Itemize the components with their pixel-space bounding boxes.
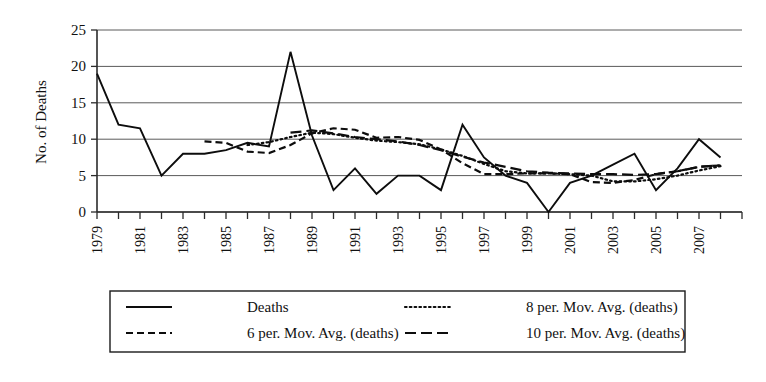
x-tick-label-1979: 1979 [90,226,105,254]
x-tick-label-1983: 1983 [176,226,191,254]
data-series-group [97,52,721,212]
series-line-solid [97,52,721,212]
x-tick-label-2001: 2001 [563,226,578,254]
legend-label-dashdot: 10 per. Mov. Avg. (deaths) [526,325,685,342]
legend-label-solid: Deaths [247,299,289,315]
x-tick-label-2005: 2005 [649,226,664,254]
x-tick-label-1989: 1989 [305,226,320,254]
x-tick-label-2003: 2003 [606,226,621,254]
x-tick-label-1995: 1995 [434,226,449,254]
x-tick-label-1987: 1987 [262,226,277,254]
y-tick-label-5: 5 [79,168,87,184]
y-tick-label-20: 20 [71,58,86,74]
x-tick-label-1981: 1981 [133,226,148,254]
legend-label-dotted: 8 per. Mov. Avg. (deaths) [526,299,678,316]
deaths-line-chart: 0510152025 19791981198319851987198919911… [0,0,766,382]
legend: Deaths8 per. Mov. Avg. (deaths)6 per. Mo… [110,291,685,352]
chart-figure: 0510152025 19791981198319851987198919911… [0,0,766,382]
x-tick-label-2007: 2007 [692,226,707,254]
x-tick-label-1999: 1999 [520,226,535,254]
y-tick-label-10: 10 [71,131,86,147]
y-tick-label-15: 15 [71,95,86,111]
y-axis: 0510152025 [71,22,97,220]
y-tick-label-25: 25 [71,22,86,38]
x-axis: 1979198119831985198719891991199319951997… [90,212,742,254]
x-tick-label-1993: 1993 [391,226,406,254]
x-tick-label-1997: 1997 [477,226,492,254]
y-axis-title: No. of Deaths [33,80,49,164]
y-tick-label-0: 0 [79,204,87,220]
x-tick-label-1985: 1985 [219,226,234,254]
x-tick-label-1991: 1991 [348,226,363,254]
gridlines [97,30,742,212]
legend-label-dashed: 6 per. Mov. Avg. (deaths) [247,325,399,342]
